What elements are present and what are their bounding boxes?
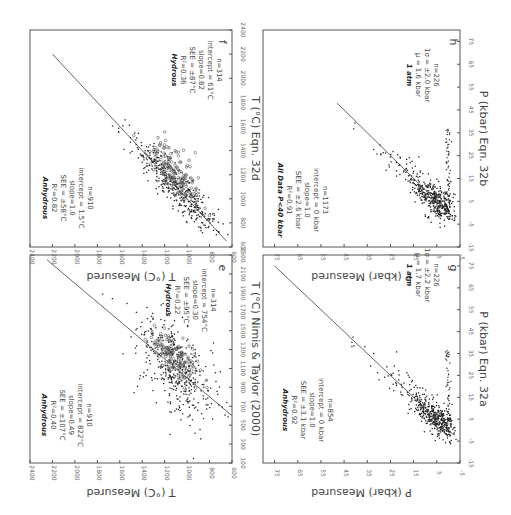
y-tick-label: 35 bbox=[366, 253, 373, 261]
annotation-text: n=314 bbox=[209, 288, 217, 312]
x-tick-label: 100 bbox=[240, 457, 247, 469]
y-tick-label: 55 bbox=[320, 469, 327, 477]
x-tick-label: 1000 bbox=[240, 191, 247, 206]
annotation-text: Hydrous bbox=[170, 54, 178, 87]
annotation-text: Anhydrous bbox=[41, 176, 49, 219]
x-tick-label: 15 bbox=[468, 393, 475, 401]
y-tick-label: 65 bbox=[297, 253, 304, 261]
x-tick-label: 900 bbox=[240, 382, 247, 394]
annotation-text: SEE = ±58°C bbox=[59, 175, 67, 222]
annotation-text: 1 atm bbox=[405, 64, 413, 87]
x-tick-label: 2200 bbox=[240, 46, 247, 61]
annotation-text: R²=0.36 bbox=[179, 55, 187, 85]
y-tick-label: 600 bbox=[231, 251, 238, 263]
x-axis-label: T (°C) Eqn. 32d bbox=[249, 95, 262, 180]
x-tick-label: 55 bbox=[468, 306, 475, 314]
annotation-text: Anhydrous bbox=[281, 388, 289, 431]
annotation-text: 1σ = ±2.2 kbar bbox=[423, 248, 431, 302]
fit-line bbox=[337, 103, 453, 217]
x-tick-label: 1500 bbox=[240, 323, 247, 338]
annotation-text: slope=0.49 bbox=[67, 395, 75, 435]
annotation-text: n=854 bbox=[326, 398, 334, 422]
x-axis-label: T (°C) Nimis & Taylor (2000) bbox=[249, 281, 262, 436]
y-tick-label: -5 bbox=[459, 470, 466, 476]
y-tick-label: 1200 bbox=[164, 465, 171, 480]
y-tick-label: 35 bbox=[366, 469, 373, 477]
y-tick-label: 1600 bbox=[119, 465, 126, 480]
panel-label: f bbox=[216, 40, 229, 45]
annotation-text: μ = 1.6 kbar bbox=[414, 53, 422, 97]
y-tick-label: 1000 bbox=[186, 465, 193, 480]
annotation-text: All Data P<40 kbar bbox=[276, 162, 284, 238]
y-tick-label: 1000 bbox=[186, 249, 193, 264]
x-tick-label: 75 bbox=[468, 38, 475, 46]
x-tick-label: 2400 bbox=[240, 22, 247, 37]
scatter-points bbox=[353, 123, 456, 229]
annotation-text: intercept = 822°C bbox=[76, 383, 84, 447]
y-tick-label: 65 bbox=[297, 469, 304, 477]
x-tick-label: 600 bbox=[240, 241, 247, 253]
x-tick-label: 1300 bbox=[240, 342, 247, 357]
annotation-text: R²=0.40 bbox=[49, 400, 57, 429]
y-tick-label: 800 bbox=[209, 251, 216, 263]
x-tick-label: 2100 bbox=[240, 266, 247, 281]
x-tick-label: -5 bbox=[468, 221, 475, 227]
annotation-text: SEE = ±107°C bbox=[58, 389, 66, 440]
annotation-text: intercept = 1.5°C bbox=[77, 167, 85, 228]
x-tick-label: 1800 bbox=[240, 95, 247, 110]
y-tick-label: 25 bbox=[389, 253, 396, 261]
panel-label: g bbox=[447, 265, 460, 272]
y-tick-label: 1400 bbox=[141, 249, 148, 264]
y-tick-label: 15 bbox=[413, 469, 420, 477]
x-tick-label: 75 bbox=[468, 262, 475, 270]
y-tick-label: 5 bbox=[436, 255, 443, 259]
x-tick-label: 1700 bbox=[240, 304, 247, 319]
annotation-text: n=910 bbox=[85, 403, 93, 427]
annotation-text: Hydrous bbox=[164, 284, 172, 317]
x-tick-label: 35 bbox=[468, 129, 475, 137]
annotation-text: R²=0.22 bbox=[173, 285, 181, 314]
figure: 1003005007009001100130015001700190021002… bbox=[0, 0, 511, 515]
y-tick-label: 75 bbox=[274, 469, 281, 477]
y-tick-label: 1800 bbox=[96, 465, 103, 480]
annotation-text: R²=0.91 bbox=[285, 185, 293, 214]
annotation-text: slope=0.82 bbox=[197, 50, 205, 90]
annotation-text: SEE = ±2.6 kbar bbox=[294, 171, 302, 230]
x-tick-label: 500 bbox=[240, 419, 247, 431]
panel-e: 1003005007009001100130015001700190021002… bbox=[29, 247, 262, 499]
annotation-text: R²=0.82 bbox=[50, 183, 58, 212]
x-tick-label: 1200 bbox=[240, 167, 247, 182]
y-tick-label: 75 bbox=[274, 253, 281, 261]
annotation-text: slope=1.0 bbox=[303, 182, 311, 218]
x-tick-label: 300 bbox=[240, 438, 247, 450]
annotation-text: SEE = ±87°C bbox=[188, 47, 196, 94]
y-tick-label: 2000 bbox=[74, 465, 81, 480]
x-tick-label: 55 bbox=[468, 83, 475, 91]
x-tick-label: 65 bbox=[468, 60, 475, 68]
y-tick-label: 45 bbox=[343, 469, 350, 477]
x-tick-label: 2000 bbox=[240, 71, 247, 86]
annotation-text: n=226 bbox=[432, 263, 440, 287]
annotation-text: slope=1.0 bbox=[68, 180, 76, 216]
scatter-points bbox=[102, 294, 229, 460]
panel-label: e bbox=[216, 265, 229, 272]
x-tick-label: 5 bbox=[468, 417, 475, 421]
annotation-text: 1σ = ±2.0 kbar bbox=[423, 48, 431, 102]
y-axis-label: P (kbar) Measured bbox=[311, 486, 412, 499]
panel-label: h bbox=[447, 39, 460, 46]
y-tick-label: 2400 bbox=[29, 465, 36, 480]
annotation-text: slope=0.30 bbox=[191, 280, 199, 320]
x-tick-label: 1900 bbox=[240, 285, 247, 300]
x-tick-label: 45 bbox=[468, 328, 475, 336]
x-tick-label: -5 bbox=[468, 438, 475, 444]
panel-h: -15-5515253545556575-5515253545556575P (… bbox=[263, 30, 490, 283]
x-tick-label: 700 bbox=[240, 401, 247, 413]
x-tick-label: 5 bbox=[468, 199, 475, 203]
x-tick-label: 65 bbox=[468, 284, 475, 292]
x-axis-label: P (kbar) Eqn. 32a bbox=[477, 311, 490, 406]
y-tick-label: 2200 bbox=[51, 249, 58, 264]
annotation-text: slope=1.0 bbox=[308, 392, 316, 428]
x-tick-label: 1100 bbox=[240, 361, 247, 376]
annotation-text: intercept = 61°C bbox=[206, 40, 214, 99]
y-tick-label: 45 bbox=[343, 253, 350, 261]
